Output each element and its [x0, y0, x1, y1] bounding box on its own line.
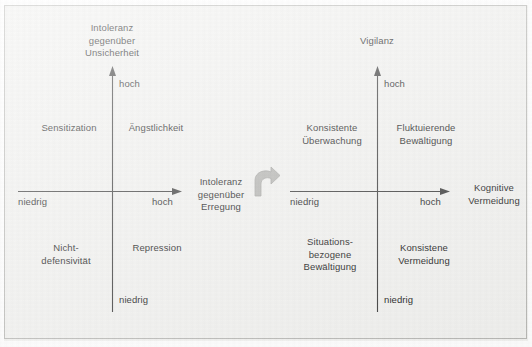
- x-axis-low-tick-right: niedrig: [290, 196, 319, 209]
- page-margin-bottom: [0, 341, 532, 347]
- curved-block-arrow-icon: [252, 166, 282, 200]
- quadrant-right-bottom-left: Situations- bezogene Bewältigung: [304, 236, 357, 274]
- y-axis-low-tick-left: niedrig: [119, 294, 148, 307]
- y-axis-high-tick-left: hoch: [119, 78, 140, 91]
- page-margin-top: [0, 0, 532, 5]
- quadrant-right-bottom-right: Konsistene Vermeidung: [398, 242, 450, 267]
- quadrant-left-bottom-left: Nicht- defensivität: [41, 242, 90, 267]
- connector-arrow: [252, 166, 282, 200]
- diagram-left: Intoleranz gegenüber Unsicherheit hoch n…: [0, 0, 266, 347]
- page-margin-left: [0, 0, 4, 347]
- y-axis-low-tick-right: niedrig: [384, 294, 413, 307]
- page-margin-right: [528, 0, 532, 347]
- x-axis-high-tick-left: hoch: [152, 196, 173, 209]
- quadrant-right-top-right: Fluktuierende Bewältigung: [397, 122, 456, 147]
- quadrant-left-top-right: Ängstlichkeit: [129, 122, 184, 135]
- figure-page: Intoleranz gegenüber Unsicherheit hoch n…: [0, 0, 532, 347]
- y-axis-title-left: Intoleranz gegenüber Unsicherheit: [85, 22, 139, 60]
- y-axis-title-right: Vigilanz: [360, 35, 394, 48]
- y-axis-high-tick-right: hoch: [384, 78, 405, 91]
- quadrant-left-bottom-right: Repression: [132, 242, 181, 255]
- quadrant-right-top-left: Konsistente Überwachung: [302, 122, 362, 147]
- x-axis-title-left: Intoleranz gegenüber Erregung: [198, 176, 244, 214]
- quadrant-left-top-left: Sensitization: [41, 122, 96, 135]
- diagram-right: Vigilanz hoch niedrig niedrig hoch Kogni…: [266, 0, 532, 347]
- x-axis-high-tick-right: hoch: [420, 196, 441, 209]
- x-axis-title-right: Kognitive Vermeidung: [468, 182, 520, 207]
- x-axis-low-tick-left: niedrig: [18, 196, 47, 209]
